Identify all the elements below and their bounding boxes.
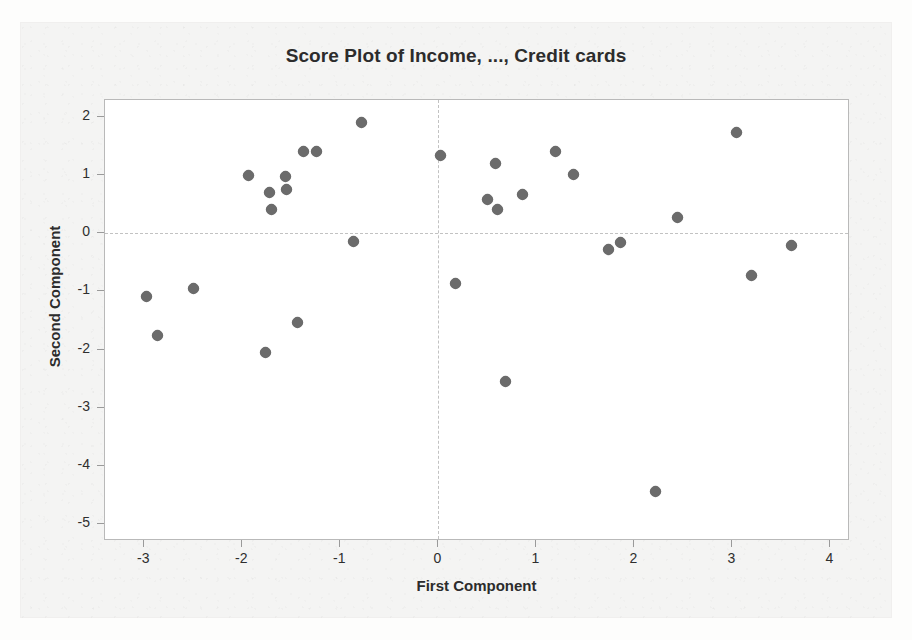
- x-axis-tick-label: -1: [319, 550, 359, 566]
- scatter-point: [487, 156, 503, 172]
- scatter-point: [744, 267, 760, 283]
- x-axis-tick: [731, 540, 732, 547]
- x-axis-tick: [535, 540, 536, 547]
- scatter-point: [729, 125, 745, 141]
- scatter-point: [498, 374, 514, 390]
- scatter-point: [138, 288, 154, 304]
- x-axis-tick: [437, 540, 438, 547]
- scatter-point: [489, 201, 505, 217]
- scatter-point: [295, 144, 311, 160]
- x-axis-tick-label: 2: [613, 550, 653, 566]
- x-axis-label: First Component: [104, 577, 849, 594]
- x-axis-tick: [241, 540, 242, 547]
- chart-title: Score Plot of Income, ..., Credit cards: [0, 45, 912, 67]
- y-axis-tick-label: -4: [52, 456, 90, 472]
- scatter-point: [346, 234, 362, 250]
- y-axis-tick-label: 2: [52, 107, 90, 123]
- scatter-point: [279, 182, 295, 198]
- reference-line-horizontal: [105, 233, 848, 234]
- x-axis-tick-label: 4: [809, 550, 849, 566]
- scatter-point: [278, 169, 294, 185]
- y-axis-tick: [97, 290, 104, 291]
- scatter-point: [240, 168, 256, 184]
- scatter-point: [309, 144, 325, 160]
- y-axis-label: Second Component: [46, 167, 63, 427]
- screenshot-page: Score Plot of Income, ..., Credit cards …: [0, 0, 912, 640]
- y-axis-tick: [97, 407, 104, 408]
- plot-area: [104, 99, 849, 540]
- y-axis-tick: [97, 465, 104, 466]
- scatter-point: [613, 234, 629, 250]
- scatter-point: [354, 114, 370, 130]
- x-axis-tick-label: 3: [711, 550, 751, 566]
- scatter-point: [150, 328, 166, 344]
- y-axis-tick: [97, 349, 104, 350]
- scatter-point: [448, 276, 464, 292]
- scatter-point: [566, 166, 582, 182]
- x-axis-tick: [143, 540, 144, 547]
- x-axis-tick-label: -2: [221, 550, 261, 566]
- y-axis-tick: [97, 174, 104, 175]
- scatter-point: [648, 484, 664, 500]
- scatter-point: [515, 186, 531, 202]
- scatter-point: [264, 201, 280, 217]
- scatter-point: [432, 148, 448, 164]
- scatter-point: [548, 144, 564, 160]
- x-axis-tick-label: 0: [417, 550, 457, 566]
- x-axis-tick: [339, 540, 340, 547]
- scatter-point: [185, 280, 201, 296]
- y-axis-tick: [97, 232, 104, 233]
- scatter-point: [262, 185, 278, 201]
- reference-line-vertical: [438, 100, 439, 539]
- y-axis-tick: [97, 523, 104, 524]
- scatter-point: [258, 345, 274, 361]
- x-axis-tick-label: -3: [123, 550, 163, 566]
- x-axis-tick: [829, 540, 830, 547]
- x-axis-tick: [633, 540, 634, 547]
- scatter-point: [783, 237, 799, 253]
- y-axis-tick: [97, 116, 104, 117]
- x-axis-tick-label: 1: [515, 550, 555, 566]
- y-axis-tick-label: -5: [52, 514, 90, 530]
- scatter-point: [289, 314, 305, 330]
- scatter-point: [670, 209, 686, 225]
